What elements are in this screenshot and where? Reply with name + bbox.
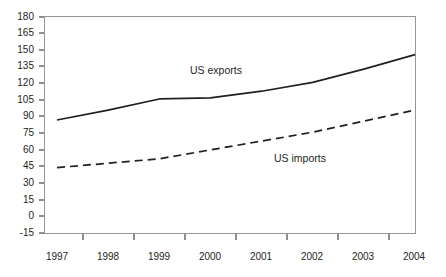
- series-label-us-exports: US exports: [190, 64, 242, 76]
- x-tick-label: 2003: [341, 252, 385, 262]
- x-tick-label: 1999: [137, 252, 181, 262]
- y-tick-label: 75: [4, 128, 34, 138]
- x-tick-label: 2000: [188, 252, 232, 262]
- y-tick-label: 105: [4, 95, 34, 105]
- y-tick-label: 150: [4, 45, 34, 55]
- y-tick-label: 60: [4, 145, 34, 155]
- x-tick-label: 1998: [86, 252, 130, 262]
- x-tick-label: 2001: [239, 252, 283, 262]
- plot-area-border: [45, 17, 416, 234]
- y-tick-label: 180: [4, 12, 34, 22]
- x-axis-ticks: [83, 234, 389, 240]
- x-tick-label: 1997: [35, 252, 79, 262]
- y-tick-label: 90: [4, 111, 34, 121]
- chart-canvas: [0, 0, 446, 277]
- y-tick-label: 165: [4, 28, 34, 38]
- y-tick-label: 0: [4, 211, 34, 221]
- line-chart: 180 165 150 135 120 105 90 75 60 45 30 1…: [0, 0, 446, 277]
- y-tick-label: 135: [4, 61, 34, 71]
- y-tick-label: 30: [4, 178, 34, 188]
- x-tick-label: 2004: [392, 252, 436, 262]
- y-tick-label: -15: [4, 228, 34, 238]
- series-label-us-imports: US imports: [274, 152, 326, 164]
- y-tick-label: 120: [4, 78, 34, 88]
- y-tick-label: 45: [4, 161, 34, 171]
- y-axis-ticks: [39, 17, 44, 233]
- x-tick-label: 2002: [290, 252, 334, 262]
- y-tick-label: 15: [4, 195, 34, 205]
